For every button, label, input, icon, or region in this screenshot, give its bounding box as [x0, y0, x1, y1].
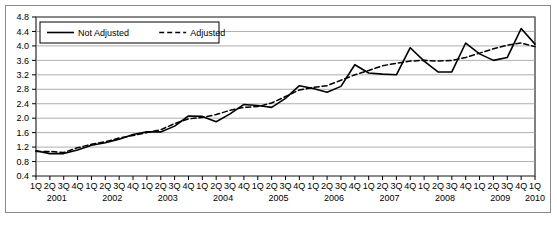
- x-tick-label: 3Q: [501, 181, 513, 191]
- x-tick-label: 2Q: [321, 181, 333, 191]
- year-label: 2009: [490, 193, 510, 203]
- x-axis-ticks: 1Q2Q3Q4Q1Q2Q3Q4Q1Q2Q3Q4Q1Q2Q3Q4Q1Q2Q3Q4Q…: [30, 176, 541, 191]
- x-tick-label: 2Q: [44, 181, 56, 191]
- year-label: 2008: [435, 193, 455, 203]
- x-tick-label: 2Q: [432, 181, 444, 191]
- x-tick-label: 3Q: [390, 181, 402, 191]
- x-tick-label: 2Q: [266, 181, 278, 191]
- x-tick-label: 3Q: [279, 181, 291, 191]
- y-tick-label: 2.8: [16, 84, 29, 94]
- y-tick-label: 3.2: [16, 70, 29, 80]
- x-tick-label: 2Q: [210, 181, 222, 191]
- x-tick-label: 3Q: [224, 181, 236, 191]
- y-axis-tick-labels: 0.40.81.21.62.02.42.83.23.64.04.44.8: [16, 12, 29, 181]
- x-tick-label: 4Q: [460, 181, 472, 191]
- quarterly-line-chart: 0.40.81.21.62.02.42.83.23.64.04.44.81Q2Q…: [0, 0, 557, 227]
- x-axis-year-labels: 2001200220032004200520062007200820092010: [47, 193, 545, 203]
- year-label: 2007: [379, 193, 399, 203]
- x-tick-label: 2Q: [155, 181, 167, 191]
- y-tick-label: 4.0: [16, 41, 29, 51]
- y-tick-label: 1.6: [16, 128, 29, 138]
- legend-label-adjusted: Adjusted: [190, 28, 225, 38]
- year-label: 2006: [324, 193, 344, 203]
- x-tick-label: 1Q: [418, 181, 430, 191]
- chart-figure: 0.40.81.21.62.02.42.83.23.64.04.44.81Q2Q…: [0, 0, 557, 227]
- x-tick-label: 4Q: [515, 181, 527, 191]
- y-tick-label: 0.4: [16, 171, 29, 181]
- legend-label-not-adjusted: Not Adjusted: [78, 28, 129, 38]
- x-tick-label: 4Q: [238, 181, 250, 191]
- chart-legend: Not AdjustedAdjusted: [40, 22, 225, 43]
- x-tick-label: 4Q: [404, 181, 416, 191]
- x-tick-label: 4Q: [293, 181, 305, 191]
- y-tick-label: 2.0: [16, 113, 29, 123]
- x-tick-label: 1Q: [529, 181, 541, 191]
- x-tick-label: 3Q: [58, 181, 70, 191]
- y-tick-label: 4.8: [16, 12, 29, 22]
- x-tick-label: 4Q: [127, 181, 139, 191]
- x-tick-label: 2Q: [377, 181, 389, 191]
- x-tick-label: 1Q: [363, 181, 375, 191]
- y-tick-label: 2.4: [16, 99, 29, 109]
- x-tick-label: 4Q: [349, 181, 361, 191]
- x-tick-label: 1Q: [30, 181, 42, 191]
- year-label: 2002: [102, 193, 122, 203]
- year-label: 2003: [158, 193, 178, 203]
- y-tick-label: 3.6: [16, 56, 29, 66]
- x-tick-label: 3Q: [113, 181, 125, 191]
- x-tick-label: 2Q: [99, 181, 111, 191]
- x-tick-label: 1Q: [85, 181, 97, 191]
- y-tick-label: 4.4: [16, 27, 29, 37]
- year-label: 2001: [47, 193, 67, 203]
- x-tick-label: 1Q: [196, 181, 208, 191]
- x-tick-label: 4Q: [182, 181, 194, 191]
- y-tick-label: 0.8: [16, 157, 29, 167]
- x-tick-label: 1Q: [307, 181, 319, 191]
- y-tick-label: 1.2: [16, 142, 29, 152]
- x-tick-label: 1Q: [141, 181, 153, 191]
- year-label: 2004: [213, 193, 233, 203]
- year-label: 2005: [269, 193, 289, 203]
- year-label: 2010: [525, 193, 545, 203]
- x-tick-label: 4Q: [72, 181, 84, 191]
- x-tick-label: 1Q: [474, 181, 486, 191]
- x-tick-label: 3Q: [446, 181, 458, 191]
- x-tick-label: 2Q: [487, 181, 499, 191]
- x-tick-label: 3Q: [335, 181, 347, 191]
- x-tick-label: 3Q: [169, 181, 181, 191]
- x-tick-label: 1Q: [252, 181, 264, 191]
